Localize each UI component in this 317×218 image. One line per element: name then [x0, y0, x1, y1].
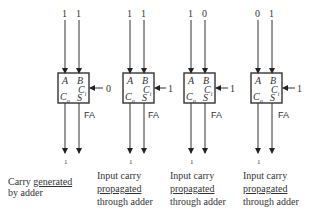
- fa-label: FA: [211, 110, 222, 121]
- input-a-value: 1: [127, 8, 132, 19]
- carry-out-value: 1: [64, 157, 68, 168]
- caption: Carry generated by adder: [8, 176, 72, 198]
- caption: Input carry propagated through adder: [97, 170, 153, 207]
- input-a-value: 1: [62, 8, 67, 19]
- input-b-value: 1: [141, 8, 146, 19]
- pin-co-label: Co: [125, 91, 135, 107]
- input-b-value: 1: [269, 8, 274, 19]
- pin-a-label: A: [62, 75, 68, 86]
- carry-in-value: 1: [230, 83, 235, 94]
- pin-s-label: S: [270, 92, 275, 103]
- fa-label: FA: [148, 110, 159, 121]
- pin-a-label: A: [127, 75, 133, 86]
- carry-out-value: 1: [129, 157, 133, 168]
- carry-in-value: 0: [106, 83, 111, 94]
- caption: Input carry propagated through adder: [170, 170, 226, 207]
- pin-co-label: Co: [60, 91, 70, 107]
- pin-a-label: A: [255, 75, 261, 86]
- input-a-value: 1: [188, 8, 193, 19]
- carry-out-value: 1: [190, 157, 194, 168]
- pin-a-label: A: [188, 75, 194, 86]
- caption: Input carry propagated through adder: [243, 170, 299, 207]
- pin-s-label: S: [203, 92, 208, 103]
- carry-out-value: 1: [257, 157, 261, 168]
- carry-in-value: 1: [297, 83, 302, 94]
- pin-co-label: Co: [186, 91, 196, 107]
- input-b-value: 1: [76, 8, 81, 19]
- pin-co-label: Co: [253, 91, 263, 107]
- input-b-value: 0: [202, 8, 207, 19]
- carry-in-value: 1: [168, 83, 173, 94]
- fa-label: FA: [278, 110, 289, 121]
- fa-label: FA: [84, 110, 95, 121]
- input-a-value: 0: [255, 8, 260, 19]
- pin-s-label: S: [142, 92, 147, 103]
- pin-s-label: S: [77, 92, 82, 103]
